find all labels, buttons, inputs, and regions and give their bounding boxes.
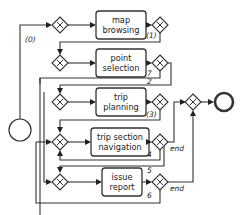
task-label: trip [114,92,128,102]
arrow-head [46,22,52,28]
task-label: browsing [102,25,139,35]
task-trip-section-navigation[interactable]: trip section navigation [91,128,149,156]
gateway-nav-out [152,134,168,150]
flow-left-to-issue [44,92,50,182]
arrow-head [46,179,52,185]
task-label: selection [103,63,140,73]
flow-label-2: 2 [147,77,152,86]
arrow-head [90,99,96,105]
arrow-head [57,150,63,156]
arrow-head [57,49,63,55]
end-event[interactable] [215,93,233,111]
task-label: navigation [98,142,141,152]
arrow-head [190,110,196,116]
process-diagram: (0) map browsing (1) point selection 7 2… [0,0,248,215]
gateway-map-in [52,17,68,33]
task-point-selection[interactable]: point selection [96,49,146,77]
flow-label-5: 5 [147,166,152,175]
task-issue-report[interactable]: issue report [102,168,142,196]
task-label: planning [103,102,139,112]
start-event[interactable] [9,119,31,141]
gateway-trip-out [152,94,168,110]
arrow-head [96,179,102,185]
gateway-point-in [52,55,68,71]
flow-nav-end [168,102,184,142]
task-label: point [111,53,133,63]
task-trip-planning[interactable]: trip planning [96,88,146,116]
arrow-head [208,99,214,105]
arrow-head [146,22,152,28]
arrow-head [146,179,152,185]
flow-label-nav-end: end [170,144,184,153]
task-label: issue [111,172,132,182]
flow-label-1: (1) [146,31,157,40]
arrow-head [90,22,96,28]
arrow-head [57,127,63,133]
task-label: trip section [97,132,143,142]
arrow-head [146,99,152,105]
arrow-head [46,139,52,145]
gateway-issue-in [52,174,68,190]
gateway-nav-in [52,134,68,150]
arrow-head [85,139,91,145]
arrow-head [90,60,96,66]
task-label: report [109,182,135,192]
task-map-browsing[interactable]: map browsing [96,11,146,39]
gateway-issue-out [152,174,168,190]
flow-label-3: (3) [146,110,157,119]
task-label: map [112,15,130,25]
flow-label-issue-end: end [170,184,184,193]
gateway-trip-in [52,94,68,110]
flow-label-4: 4 [147,150,152,159]
flow-label-0: (0) [25,35,36,44]
gateway-point-out [152,55,168,71]
arrow-head [57,88,63,94]
gateway-end-merge [185,94,201,110]
arrow-head [146,60,152,66]
flow-label-6: 6 [147,191,152,200]
arrow-head [57,167,63,173]
